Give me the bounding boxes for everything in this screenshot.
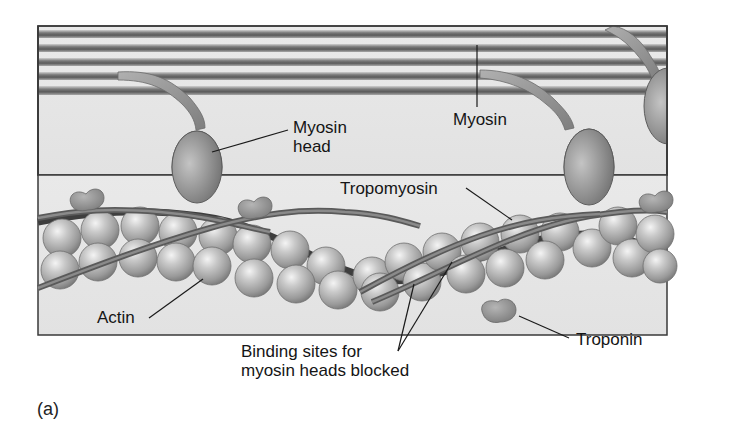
label-myosin-head: Myosin head [293, 118, 347, 156]
panel-label: (a) [37, 399, 59, 420]
label-tropomyosin: Tropomyosin [340, 179, 438, 198]
label-binding-sites-line1: Binding sites for [241, 342, 409, 361]
muscle-filament-diagram: Myosin head Myosin Tropomyosin Actin Tro… [0, 0, 746, 441]
label-binding-sites-line2: myosin heads blocked [241, 361, 409, 380]
myosin-head-middle-lower [564, 129, 614, 205]
label-myosin-head-line1: Myosin [293, 118, 347, 137]
myosin-head-left-lower [172, 131, 222, 203]
label-troponin: Troponin [576, 330, 642, 349]
label-binding-sites: Binding sites for myosin heads blocked [241, 342, 409, 380]
label-myosin-head-line2: head [293, 137, 347, 156]
label-myosin: Myosin [453, 110, 507, 129]
label-actin: Actin [97, 308, 135, 327]
